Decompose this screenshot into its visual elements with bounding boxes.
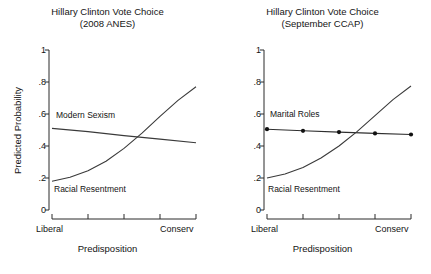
data-point-marker bbox=[301, 129, 305, 133]
data-point-marker bbox=[337, 130, 341, 134]
data-point-marker bbox=[373, 131, 377, 135]
series-line-racial-resentment-left bbox=[52, 87, 196, 181]
figure-two-panel-chart: Hillary Clinton Vote Choice (2008 ANES) … bbox=[0, 0, 431, 274]
panel-ccap: Hillary Clinton Vote Choice (September C… bbox=[215, 0, 430, 274]
data-point-marker bbox=[265, 127, 269, 131]
series-line-modern-sexism bbox=[52, 128, 196, 142]
panel-anes: Hillary Clinton Vote Choice (2008 ANES) … bbox=[0, 0, 215, 274]
data-point-marker bbox=[409, 132, 413, 136]
plot-area-left bbox=[0, 0, 215, 274]
plot-area-right bbox=[215, 0, 430, 274]
